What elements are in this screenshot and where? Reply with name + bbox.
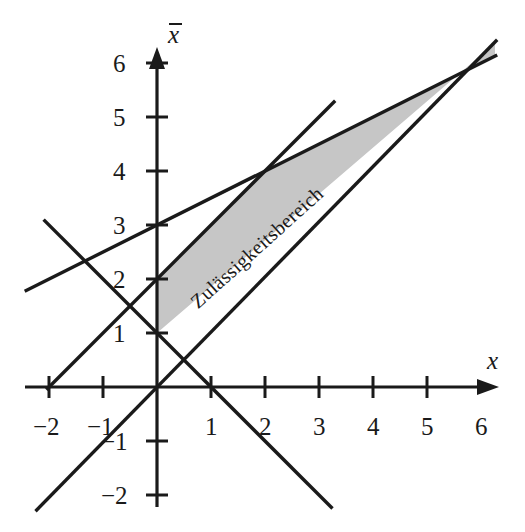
y-tick-label-5: 5 xyxy=(113,105,126,130)
x-tick-label-6: 6 xyxy=(475,414,488,439)
y-tick-label-3: 3 xyxy=(113,213,126,238)
y-tick-label--2: −2 xyxy=(101,483,128,508)
x-axis-arrowhead xyxy=(477,379,499,395)
y-tick-label-6: 6 xyxy=(113,51,126,76)
x-tick-label-3: 3 xyxy=(313,414,326,439)
x-tick-label-5: 5 xyxy=(421,414,434,439)
plot-canvas xyxy=(0,0,525,532)
y-axis-label-text: x xyxy=(168,21,179,48)
y-tick-label-2: 2 xyxy=(113,267,126,292)
x-tick-label--2: −2 xyxy=(33,414,60,439)
y-tick-label--1: −1 xyxy=(101,429,128,454)
x-axis-label: x xyxy=(487,348,498,373)
y-tick-label-1: 1 xyxy=(113,321,126,346)
y-axis-label: x xyxy=(168,22,179,47)
x-axis-label-text: x xyxy=(487,347,498,374)
overbar-accent xyxy=(169,23,182,25)
y-axis-arrowhead xyxy=(149,47,165,69)
constraint-line-1 xyxy=(46,101,335,390)
x-tick-label-4: 4 xyxy=(367,414,380,439)
x-tick-label-1: 1 xyxy=(205,414,218,439)
feasible-region-figure: −2 −1 1 2 3 4 5 6 6 5 4 3 2 1 −1 −2 x x … xyxy=(0,0,525,532)
x-tick-label-2: 2 xyxy=(259,414,272,439)
y-tick-label-4: 4 xyxy=(113,159,126,184)
